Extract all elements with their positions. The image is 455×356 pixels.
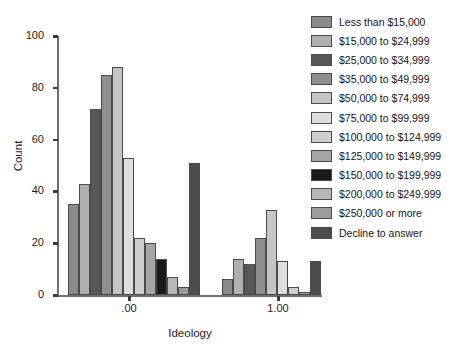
y-tick-label-80: 80	[0, 82, 44, 93]
legend-swatch	[311, 92, 332, 104]
chart-root: 020406080100 .001.00 Count Ideology Less…	[0, 0, 455, 356]
x-tick-label-0: .00	[99, 303, 159, 314]
legend-item: $25,000 to $34,999	[311, 50, 453, 69]
y-axis-line	[57, 36, 59, 296]
y-tick-label-100: 100	[0, 30, 44, 41]
bar	[189, 163, 200, 295]
legend-label: $25,000 to $34,999	[339, 54, 430, 66]
bar	[255, 238, 266, 295]
legend-label: $35,000 to $49,999	[339, 73, 430, 85]
x-axis-title: Ideology	[100, 327, 280, 339]
bar	[299, 292, 310, 295]
legend-item: $15,000 to $24,999	[311, 31, 453, 50]
y-tick-20	[53, 242, 58, 245]
bar	[156, 259, 167, 295]
legend-item: $200,000 to $249,999	[311, 185, 453, 204]
legend-swatch	[311, 16, 332, 28]
y-tick-0	[53, 294, 58, 297]
y-tick-80	[53, 87, 58, 90]
legend-label: $250,000 or more	[339, 207, 422, 219]
legend-label: $50,000 to $74,999	[339, 92, 430, 104]
legend-label: $15,000 to $24,999	[339, 35, 430, 47]
y-tick-label-20: 20	[0, 237, 44, 248]
legend-swatch	[311, 150, 332, 162]
legend-label: $100,000 to $124,999	[339, 131, 441, 143]
legend-item: $75,000 to $99,999	[311, 108, 453, 127]
legend: Less than $15,000$15,000 to $24,999$25,0…	[311, 12, 453, 242]
y-tick-100	[53, 35, 58, 38]
legend-label: $150,000 to $199,999	[339, 169, 441, 181]
y-tick-60	[53, 139, 58, 142]
legend-swatch	[311, 188, 332, 200]
legend-item: $250,000 or more	[311, 204, 453, 223]
legend-item: $150,000 to $199,999	[311, 166, 453, 185]
bar	[244, 264, 255, 295]
bar	[79, 184, 90, 295]
legend-item: $50,000 to $74,999	[311, 89, 453, 108]
x-tick-1	[277, 296, 280, 301]
legend-swatch	[311, 112, 332, 124]
bar	[266, 210, 277, 295]
legend-swatch	[311, 54, 332, 66]
legend-label: Decline to answer	[339, 227, 422, 239]
legend-swatch	[311, 227, 332, 239]
x-tick-0	[128, 296, 131, 301]
bar	[233, 259, 244, 295]
bar	[310, 261, 321, 295]
bar	[101, 75, 112, 295]
legend-swatch	[311, 73, 332, 85]
legend-item: Decline to answer	[311, 223, 453, 242]
legend-label: Less than $15,000	[339, 16, 425, 28]
legend-swatch	[311, 207, 332, 219]
bar	[167, 277, 178, 295]
y-tick-40	[53, 190, 58, 193]
bar	[90, 109, 101, 295]
bar	[123, 158, 134, 295]
legend-swatch	[311, 169, 332, 181]
legend-label: $75,000 to $99,999	[339, 112, 430, 124]
bar	[112, 67, 123, 295]
legend-item: $125,000 to $149,999	[311, 146, 453, 165]
legend-swatch	[311, 131, 332, 143]
bar	[68, 204, 79, 295]
bar	[277, 261, 288, 295]
bar	[178, 287, 189, 295]
y-tick-label-0: 0	[0, 289, 44, 300]
legend-item: Less than $15,000	[311, 12, 453, 31]
x-axis-line	[57, 295, 322, 297]
legend-item: $100,000 to $124,999	[311, 127, 453, 146]
legend-label: $200,000 to $249,999	[339, 188, 441, 200]
y-axis-title: Count	[12, 121, 24, 191]
x-tick-label-1: 1.00	[248, 303, 308, 314]
bar	[145, 243, 156, 295]
legend-item: $35,000 to $49,999	[311, 70, 453, 89]
bar	[222, 279, 233, 295]
bar	[288, 287, 299, 295]
legend-label: $125,000 to $149,999	[339, 150, 441, 162]
legend-swatch	[311, 35, 332, 47]
bar	[134, 238, 145, 295]
